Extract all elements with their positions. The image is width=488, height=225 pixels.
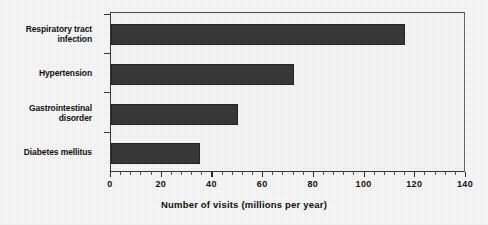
x-axis-tick-minor (191, 172, 192, 175)
x-axis-tick-major (110, 172, 111, 177)
x-axis-tick-minor (333, 172, 334, 175)
x-axis-tick-minor (130, 172, 131, 175)
x-axis: 020406080100120140 (110, 172, 466, 173)
x-axis-tick-minor (171, 172, 172, 175)
x-axis-tick-minor (181, 172, 182, 175)
x-axis-tick-minor (120, 172, 121, 175)
x-axis-tick-label: 40 (191, 179, 231, 189)
x-axis-tick-minor (151, 172, 152, 175)
x-axis-tick-minor (323, 172, 324, 175)
x-axis-tick-major (364, 172, 365, 177)
category-label-line2: infection (0, 34, 92, 44)
x-axis-tick-minor (455, 172, 456, 175)
plot-area (110, 12, 465, 172)
bar-hypertension (111, 64, 294, 85)
x-axis-tick-minor (404, 172, 405, 175)
category-label-gastrointestinal-disorder: Gastrointestinal disorder (0, 103, 92, 123)
x-axis-tick-minor (374, 172, 375, 175)
x-axis-tick-major (262, 172, 263, 177)
x-axis-tick-minor (303, 172, 304, 175)
x-axis-tick-minor (435, 172, 436, 175)
x-axis-tick-label: 100 (344, 179, 384, 189)
category-label-hypertension: Hypertension (0, 68, 92, 78)
bar-chart-figure: Respiratory tract infection Hypertension… (0, 0, 488, 225)
x-axis-tick-minor (353, 172, 354, 175)
x-axis-tick-minor (242, 172, 243, 175)
x-axis-tick-major (313, 172, 314, 177)
x-axis-tick-major (465, 172, 466, 177)
x-axis-tick-label: 0 (90, 179, 130, 189)
x-axis-tick-label: 140 (445, 179, 485, 189)
bar-respiratory-tract-infection (111, 24, 405, 45)
x-axis-tick-minor (282, 172, 283, 175)
x-axis-tick-minor (140, 172, 141, 175)
x-axis-tick-major (161, 172, 162, 177)
x-axis-tick-minor (445, 172, 446, 175)
x-axis-tick-minor (272, 172, 273, 175)
x-axis-title: Number of visits (millions per year) (0, 199, 488, 210)
x-axis-tick-major (414, 172, 415, 177)
x-axis-tick-minor (201, 172, 202, 175)
bar-series (111, 13, 464, 171)
x-axis-tick-minor (394, 172, 395, 175)
x-axis-tick-label: 80 (293, 179, 333, 189)
category-label-line1: Diabetes mellitus (0, 147, 92, 157)
bar-diabetes-mellitus (111, 143, 200, 164)
category-label-line1: Gastrointestinal (0, 103, 92, 113)
category-label-respiratory-tract-infection: Respiratory tract infection (0, 24, 92, 44)
x-axis-tick-minor (343, 172, 344, 175)
x-axis-tick-minor (252, 172, 253, 175)
x-axis-tick-minor (232, 172, 233, 175)
x-axis-tick-minor (222, 172, 223, 175)
category-label-diabetes-mellitus: Diabetes mellitus (0, 147, 92, 157)
x-axis-tick-label: 60 (242, 179, 282, 189)
x-axis-tick-minor (293, 172, 294, 175)
category-label-line2: disorder (0, 113, 92, 123)
x-axis-tick-label: 20 (141, 179, 181, 189)
category-label-line1: Respiratory tract (0, 24, 92, 34)
x-axis-tick-minor (384, 172, 385, 175)
x-axis-tick-label: 120 (394, 179, 434, 189)
x-axis-tick-major (211, 172, 212, 177)
bar-gastrointestinal-disorder (111, 104, 238, 125)
category-label-line1: Hypertension (0, 68, 92, 78)
x-axis-tick-minor (424, 172, 425, 175)
